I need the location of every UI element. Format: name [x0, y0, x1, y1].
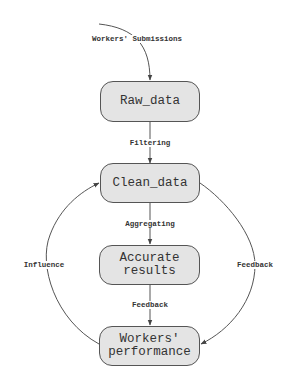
workflow-diagram: Workers' Submissions Filtering Aggregati… [0, 0, 281, 385]
edge-label-filtering: Filtering [128, 139, 173, 147]
node-accurate-results: Accurate results [99, 245, 200, 285]
edge-label-submissions: Workers' Submissions [90, 35, 184, 43]
edge-label-influence: Influence [22, 261, 67, 269]
edge-submissions [99, 24, 150, 80]
edge-label-aggregating: Aggregating [123, 220, 177, 228]
edge-label-feedback-right: Feedback [235, 261, 275, 269]
node-workers-performance: Workers' performance [99, 326, 200, 366]
node-clean-data: Clean_data [100, 163, 200, 203]
edge-label-feedback-center: Feedback [130, 301, 170, 309]
node-raw-data: Raw_data [100, 81, 200, 122]
